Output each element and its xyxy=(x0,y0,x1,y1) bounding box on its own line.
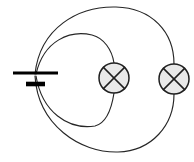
lamp-1-symbol xyxy=(99,63,129,93)
circuit-diagram-figure xyxy=(0,0,194,162)
lamp-2-symbol xyxy=(159,64,189,94)
outer-loop-upper-wire xyxy=(35,7,174,74)
circuit-diagram-canvas xyxy=(0,0,194,162)
